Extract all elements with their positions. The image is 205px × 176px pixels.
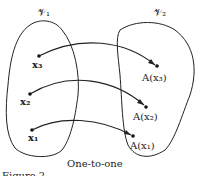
mapping-diagram xyxy=(0,0,205,176)
point-x1-label: x₁ xyxy=(28,132,38,143)
point-x3-label: x₃ xyxy=(32,59,42,70)
figure-label: Figure 2- xyxy=(2,170,49,176)
set-v1-blob xyxy=(6,21,78,157)
arrow-x3 xyxy=(39,43,155,65)
image-a2-label: A(x₂) xyxy=(133,111,158,122)
arrow-x1 xyxy=(32,120,131,135)
image-a1-label: A(x₁) xyxy=(130,140,155,151)
image-a3-label: A(x₃) xyxy=(142,72,167,83)
set-v1-label: 𝒱₁ xyxy=(38,7,50,19)
point-x2-label: x₂ xyxy=(20,96,30,107)
arrow-x2 xyxy=(30,80,144,105)
set-v2-label: 𝒱₂ xyxy=(154,7,166,19)
set-v2-blob xyxy=(117,23,194,157)
caption: One-to-one xyxy=(67,158,123,169)
